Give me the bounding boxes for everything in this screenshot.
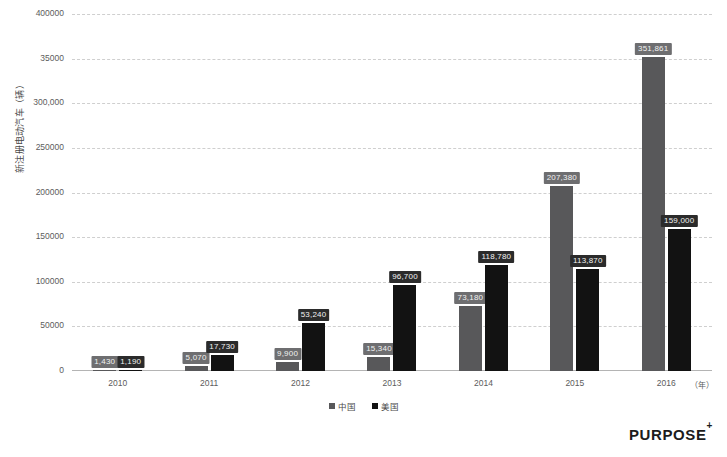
bar-中国-2015[interactable]: 207,380 — [550, 186, 573, 371]
bar-美国-2011[interactable]: 17,730 — [211, 355, 234, 371]
data-label: 15,340 — [363, 343, 395, 355]
bar-slot: 5,070 — [185, 14, 208, 371]
data-label: 113,870 — [570, 255, 606, 267]
y-tick-label: 100000 — [0, 277, 64, 286]
y-tick-label: 200000 — [0, 188, 64, 197]
data-label: 1,190 — [117, 356, 144, 368]
chart-legend: 中国美国 — [0, 400, 727, 412]
bar-中国-2014[interactable]: 73,180 — [459, 306, 482, 371]
legend-label: 中国 — [338, 400, 356, 412]
y-tick-label: 0 — [0, 366, 64, 375]
y-tick-label: 400000 — [0, 9, 64, 18]
bar-美国-2015[interactable]: 113,870 — [576, 269, 599, 371]
legend-item-中国[interactable]: 中国 — [329, 400, 356, 412]
bar-slot: 159,000 — [668, 14, 691, 371]
bar-中国-2012[interactable]: 9,900 — [276, 362, 299, 371]
bar-美国-2012[interactable]: 53,240 — [302, 323, 325, 371]
bar-slot: 351,861 — [642, 14, 665, 371]
bar-slot: 1,430 — [93, 14, 116, 371]
legend-swatch-icon — [329, 403, 335, 409]
bar-group-2011: 5,07017,730 — [163, 14, 254, 371]
bar-中国-2013[interactable]: 15,340 — [367, 357, 390, 371]
bar-group-2014: 73,180118,780 — [438, 14, 529, 371]
bar-slot: 207,380 — [550, 14, 573, 371]
bar-slot: 15,340 — [367, 14, 390, 371]
data-label: 351,861 — [635, 43, 671, 55]
bar-groups: 1,4301,1905,07017,7309,90053,24015,34096… — [72, 14, 712, 371]
x-tick-label-2014: 2014 — [438, 378, 528, 388]
y-tick-label: 250000 — [0, 143, 64, 152]
y-axis-title: 新注册电动汽车（辆） — [13, 52, 26, 202]
bar-group-2012: 9,90053,240 — [255, 14, 346, 371]
bar-group-2010: 1,4301,190 — [72, 14, 163, 371]
data-label: 73,180 — [455, 292, 487, 304]
purpose-logo: PURPOSE+ — [629, 425, 713, 443]
data-label: 5,070 — [183, 352, 210, 364]
data-label: 9,900 — [274, 348, 301, 360]
data-label: 96,700 — [389, 271, 421, 283]
bar-slot: 17,730 — [211, 14, 234, 371]
data-label: 17,730 — [206, 341, 238, 353]
x-tick-label-2015: 2015 — [530, 378, 620, 388]
legend-item-美国[interactable]: 美国 — [372, 400, 399, 412]
bar-中国-2011[interactable]: 5,070 — [185, 366, 208, 371]
x-tick-label-2013: 2013 — [347, 378, 437, 388]
bar-美国-2013[interactable]: 96,700 — [393, 285, 416, 371]
x-axis-unit-label: （年） — [690, 379, 714, 390]
legend-swatch-icon — [372, 403, 378, 409]
y-tick-label: 35000 — [0, 54, 64, 63]
data-label: 118,780 — [479, 251, 515, 263]
bar-中国-2016[interactable]: 351,861 — [642, 57, 665, 371]
logo-superscript: + — [707, 420, 713, 431]
bar-slot: 113,870 — [576, 14, 599, 371]
y-tick-label: 300,000 — [0, 98, 64, 107]
data-label: 207,380 — [544, 172, 580, 184]
x-tick-label-2011: 2011 — [164, 378, 254, 388]
bar-group-2016: 351,861159,000 — [621, 14, 712, 371]
bar-slot: 73,180 — [459, 14, 482, 371]
bar-美国-2010[interactable]: 1,190 — [119, 370, 142, 371]
legend-label: 美国 — [381, 400, 399, 412]
bar-slot: 1,190 — [119, 14, 142, 371]
bar-group-2015: 207,380113,870 — [529, 14, 620, 371]
bar-中国-2010[interactable]: 1,430 — [93, 370, 116, 371]
data-label: 159,000 — [661, 215, 697, 227]
bar-美国-2014[interactable]: 118,780 — [485, 265, 508, 371]
chart-container: 新注册电动汽车（辆） 40000035000300,00025000020000… — [0, 0, 727, 457]
plot-area: 1,4301,1905,07017,7309,90053,24015,34096… — [72, 14, 712, 371]
x-tick-label-2012: 2012 — [256, 378, 346, 388]
bar-slot: 9,900 — [276, 14, 299, 371]
bar-slot: 118,780 — [485, 14, 508, 371]
data-label: 53,240 — [298, 309, 330, 321]
bar-美国-2016[interactable]: 159,000 — [668, 229, 691, 371]
bar-slot: 96,700 — [393, 14, 416, 371]
bar-group-2013: 15,34096,700 — [346, 14, 437, 371]
logo-text: PURPOSE — [629, 426, 707, 443]
y-tick-label: 150000 — [0, 232, 64, 241]
data-label: 1,430 — [91, 356, 118, 368]
y-tick-label: 50000 — [0, 321, 64, 330]
bar-slot: 53,240 — [302, 14, 325, 371]
x-tick-label-2010: 2010 — [73, 378, 163, 388]
